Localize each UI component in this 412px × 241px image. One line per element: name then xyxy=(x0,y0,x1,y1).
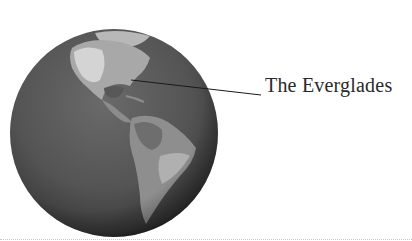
everglades-label: The Everglades xyxy=(265,74,392,97)
bottom-divider xyxy=(0,239,412,240)
globe-illustration xyxy=(0,0,412,241)
globe xyxy=(10,29,218,237)
diagram-canvas: The Everglades xyxy=(0,0,412,241)
